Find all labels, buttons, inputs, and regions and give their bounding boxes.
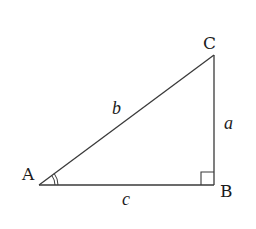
vertex-label-b: B (220, 181, 233, 201)
side-label-a: a (224, 113, 233, 133)
side-label-c: c (122, 189, 130, 209)
vertex-label-a: A (21, 164, 35, 184)
triangle-diagram: A B C a b c (0, 0, 256, 229)
side-label-b: b (112, 98, 121, 118)
angle-a-arc-inner (52, 176, 55, 186)
side-b-line (39, 55, 214, 185)
vertex-label-c: C (203, 33, 216, 53)
right-angle-marker (201, 172, 214, 185)
